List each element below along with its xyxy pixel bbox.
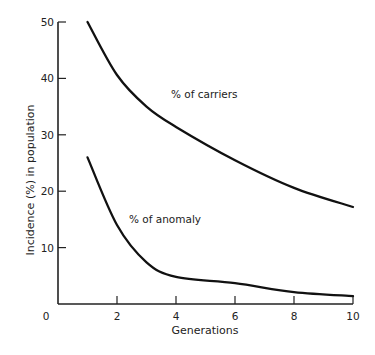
curves <box>88 22 354 296</box>
axes: 10203040500246810 <box>41 16 360 322</box>
line-chart: 10203040500246810 Generations Incidence … <box>0 0 375 355</box>
y-axis-label: Incidence (%) in population <box>24 105 37 256</box>
anomaly-curve <box>88 157 354 296</box>
x-tick-label: 4 <box>173 310 180 322</box>
x-tick-label: 10 <box>346 310 359 322</box>
y-tick-label: 30 <box>41 129 54 141</box>
x-axis-label: Generations <box>171 324 238 337</box>
x-tick-label: 2 <box>114 310 121 322</box>
y-tick-label: 10 <box>41 242 54 254</box>
y-tick-label: 20 <box>41 185 54 197</box>
x-tick-label: 6 <box>232 310 239 322</box>
y-tick-label: 40 <box>41 72 54 84</box>
x-tick-label: 0 <box>43 310 50 322</box>
y-tick-label: 50 <box>41 16 54 28</box>
labels: Generations Incidence (%) in population … <box>24 88 239 337</box>
anomaly-curve-label: % of anomaly <box>129 213 201 225</box>
x-tick-label: 8 <box>291 310 298 322</box>
carriers-curve-label: % of carriers <box>171 88 238 100</box>
carriers-curve <box>88 22 354 207</box>
